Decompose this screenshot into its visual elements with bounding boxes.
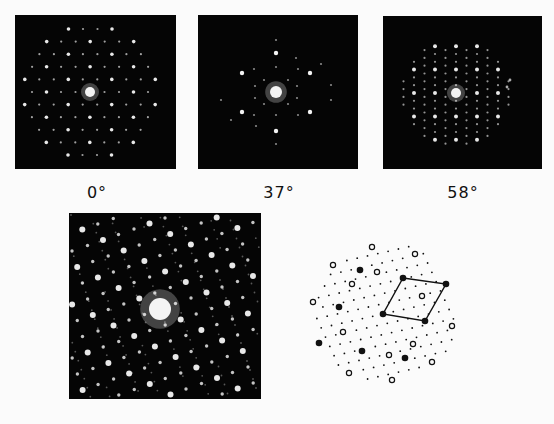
weak-reflection-dot bbox=[316, 318, 318, 320]
diffraction-spot bbox=[132, 141, 136, 145]
diffraction-spot bbox=[253, 68, 255, 70]
diffraction-spot bbox=[176, 357, 178, 359]
diffraction-spot bbox=[423, 111, 425, 113]
weak-reflection-dot bbox=[413, 306, 415, 308]
diffraction-spot bbox=[110, 309, 112, 311]
diffraction-spot bbox=[225, 248, 228, 251]
diffraction-spot bbox=[38, 53, 40, 55]
weak-reflection-dot bbox=[338, 292, 340, 294]
weak-reflection-dot bbox=[330, 274, 332, 276]
secondary-reflection-circle bbox=[429, 359, 434, 364]
diffraction-spot bbox=[254, 97, 256, 99]
secondary-reflection-circle bbox=[412, 251, 417, 256]
diffraction-spot bbox=[423, 80, 425, 82]
diffraction-spot bbox=[237, 333, 239, 335]
diffraction-spot bbox=[85, 87, 95, 97]
diffraction-spot bbox=[133, 388, 136, 391]
weak-reflection-dot bbox=[381, 262, 383, 264]
diffraction-spot bbox=[201, 375, 203, 377]
diffraction-spot bbox=[91, 309, 93, 311]
weak-reflection-dot bbox=[368, 357, 370, 359]
weak-reflection-dot bbox=[322, 306, 324, 308]
weak-reflection-dot bbox=[416, 264, 418, 266]
diffraction-spot bbox=[175, 262, 177, 264]
secondary-reflection-circle bbox=[349, 281, 354, 286]
diffraction-spot bbox=[210, 220, 212, 222]
weak-reflection-dot bbox=[385, 343, 387, 345]
diffraction-spot bbox=[434, 108, 436, 110]
diffraction-spot bbox=[486, 127, 488, 129]
diffraction-spot bbox=[100, 336, 102, 338]
diffraction-spot bbox=[215, 324, 217, 326]
diffraction-spot bbox=[170, 339, 172, 341]
diffraction-spot bbox=[198, 366, 200, 368]
diffraction-spot bbox=[31, 66, 33, 68]
diffraction-spot bbox=[186, 330, 188, 332]
diffraction-spot bbox=[476, 76, 478, 78]
weak-reflection-dot bbox=[370, 336, 372, 338]
diffraction-spot bbox=[116, 327, 118, 329]
diffraction-spot bbox=[60, 116, 62, 118]
weak-reflection-dot bbox=[414, 357, 416, 359]
weak-reflection-dot bbox=[430, 343, 432, 345]
diffraction-spot bbox=[91, 260, 94, 263]
diffraction-spot bbox=[96, 104, 98, 106]
diffraction-spot bbox=[234, 324, 236, 326]
diffraction-spot bbox=[252, 378, 254, 380]
weak-reflection-dot bbox=[393, 362, 395, 364]
weak-reflection-dot bbox=[417, 316, 419, 318]
diffraction-spot bbox=[231, 317, 234, 320]
weak-reflection-dot bbox=[353, 299, 355, 301]
diffraction-spot bbox=[153, 238, 156, 241]
diffraction-spot bbox=[136, 295, 138, 297]
diffraction-spot bbox=[118, 241, 120, 243]
weak-reflection-dot bbox=[349, 290, 351, 292]
weak-reflection-dot bbox=[326, 315, 328, 317]
diffraction-spot bbox=[103, 116, 105, 118]
strong-reflection-circle bbox=[422, 318, 429, 325]
diffraction-spot bbox=[274, 129, 278, 133]
diffraction-spot bbox=[476, 108, 478, 110]
diffraction-spot bbox=[95, 232, 97, 234]
diffraction-spot bbox=[126, 371, 132, 377]
diffraction-spot bbox=[74, 141, 76, 143]
weak-reflection-dot bbox=[415, 285, 417, 287]
secondary-reflection-circle bbox=[386, 352, 391, 357]
diffraction-spot bbox=[173, 354, 179, 360]
diffraction-spot bbox=[320, 63, 322, 65]
diffraction-spot bbox=[75, 66, 77, 68]
weak-reflection-dot bbox=[398, 371, 400, 373]
diffraction-spot bbox=[423, 104, 425, 106]
diffraction-spot bbox=[231, 371, 234, 374]
strong-reflection-circle bbox=[402, 355, 409, 362]
weak-reflection-dot bbox=[348, 362, 350, 364]
strong-reflection-circle bbox=[316, 340, 323, 347]
weak-reflection-dot bbox=[350, 341, 352, 343]
weak-reflection-dot bbox=[318, 297, 320, 299]
diffraction-spot bbox=[74, 116, 76, 118]
diffraction-spot bbox=[71, 356, 74, 359]
diffraction-spot bbox=[151, 372, 153, 374]
diffraction-spot bbox=[70, 214, 72, 216]
diffraction-spot bbox=[254, 85, 256, 87]
diffraction-spot bbox=[230, 220, 232, 222]
diffraction-spot bbox=[204, 384, 206, 386]
diffraction-spot bbox=[235, 386, 241, 392]
diffraction-spot bbox=[163, 226, 165, 228]
diffraction-spot bbox=[423, 49, 425, 51]
diffraction-spot bbox=[66, 153, 70, 157]
weak-reflection-dot bbox=[380, 283, 382, 285]
diffraction-spot bbox=[231, 315, 233, 317]
diffraction-spot bbox=[104, 66, 106, 68]
diffraction-spot bbox=[444, 65, 446, 67]
diffraction-spot bbox=[200, 221, 203, 224]
diffraction-spot bbox=[111, 323, 117, 329]
diffraction-spot bbox=[38, 104, 40, 106]
diffraction-spot bbox=[82, 78, 84, 80]
caption-0deg: 0° bbox=[67, 183, 127, 202]
diffraction-spot bbox=[476, 53, 478, 55]
weak-reflection-dot bbox=[390, 281, 392, 283]
weak-reflection-dot bbox=[351, 320, 353, 322]
diffraction-spot bbox=[118, 91, 120, 93]
diffraction-spot bbox=[60, 141, 62, 143]
